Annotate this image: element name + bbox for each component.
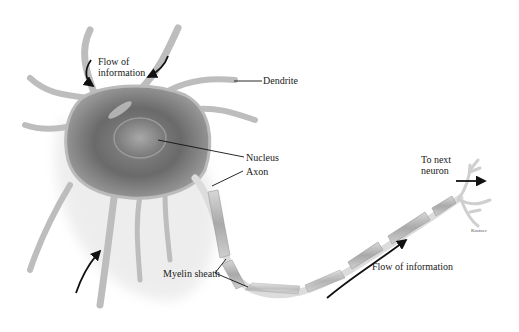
nucleus-label: Nucleus: [246, 152, 279, 163]
to-next-line1: To next: [421, 154, 451, 165]
artist-credit: Kastner: [471, 228, 487, 234]
flow-label-line2: information: [98, 67, 145, 78]
flow-of-information-label-top: Flow of information: [98, 56, 145, 78]
nucleus: [114, 118, 166, 158]
flow-of-information-label-bottom: Flow of information: [372, 261, 453, 272]
axon-terminals: [458, 160, 490, 226]
to-next-line2: neuron: [421, 165, 451, 176]
axon-label: Axon: [246, 166, 268, 177]
neuron-diagram: Flow of information Dendrite Nucleus Axo…: [0, 0, 519, 332]
dendrite-label: Dendrite: [263, 75, 298, 86]
myelin-sheath-label: Myelin sheath: [163, 268, 220, 279]
to-next-neuron-label: To next neuron: [421, 154, 451, 176]
flow-label-line1: Flow of: [98, 56, 145, 67]
myelin-sheath: [208, 190, 456, 294]
